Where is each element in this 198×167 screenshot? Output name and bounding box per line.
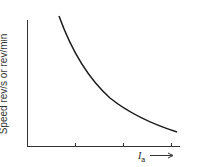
x-axis-label: Ia	[138, 150, 145, 163]
speed-curve	[59, 16, 177, 132]
chart-canvas	[0, 0, 198, 167]
